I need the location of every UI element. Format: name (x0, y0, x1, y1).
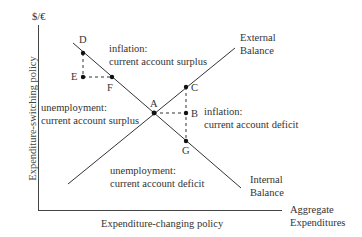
region-left-line1: unemployment: (41, 101, 139, 114)
region-left-line2: current account surplus (41, 114, 139, 127)
region-top-label: inflation: current account surplus (109, 42, 207, 68)
region-left-label: unemployment: current account surplus (41, 101, 139, 127)
region-bottom-line2: current account deficit (110, 177, 204, 190)
point-b-label: B (191, 108, 198, 120)
point-d-marker (81, 51, 85, 55)
point-f-marker (110, 75, 114, 79)
point-c-label: C (191, 82, 198, 94)
internal-balance-label: Internal Balance (250, 173, 284, 199)
point-c-marker (184, 85, 188, 89)
external-balance-label-line1: External (240, 31, 276, 44)
external-balance-label-line2: Balance (240, 44, 276, 57)
x-axis-end-label-line2: Expenditures (290, 216, 345, 229)
internal-balance-label-line2: Balance (250, 186, 284, 199)
point-g-label: G (182, 145, 190, 157)
external-balance-label: External Balance (240, 31, 276, 57)
point-b-marker (184, 111, 188, 115)
y-axis-label: Expenditure-switching policy (27, 39, 38, 199)
region-right-label: inflation: current account deficit (204, 105, 298, 131)
point-e-marker (81, 75, 85, 79)
x-axis-end-label: Aggregate Expenditures (290, 203, 345, 229)
point-g-marker (184, 139, 188, 143)
point-a-marker (152, 111, 157, 116)
region-right-line1: inflation: (204, 105, 298, 118)
region-top-line1: inflation: (109, 42, 207, 55)
region-top-line2: current account surplus (109, 55, 207, 68)
point-f-label: F (107, 82, 113, 94)
point-e-label: E (71, 71, 77, 83)
region-right-line2: current account deficit (204, 118, 298, 131)
point-a-label: A (150, 98, 158, 110)
x-axis-end-label-line1: Aggregate (290, 203, 345, 216)
internal-balance-label-line1: Internal (250, 173, 284, 186)
region-bottom-line1: unemployment: (110, 164, 204, 177)
y-axis-unit: $/€ (32, 10, 45, 23)
region-bottom-label: unemployment: current account deficit (110, 164, 204, 190)
point-d-label: D (79, 34, 87, 46)
x-axis-label: Expenditure-changing policy (101, 217, 223, 230)
